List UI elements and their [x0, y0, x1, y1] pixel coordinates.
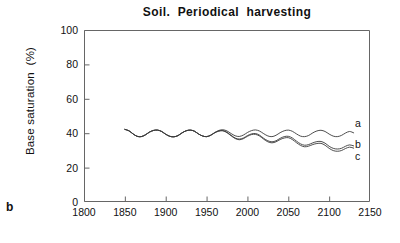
x-tick-label: 2150 [358, 206, 381, 218]
axis-frame [85, 31, 370, 202]
chart-title: Soil. Periodical harvesting [84, 5, 370, 19]
x-tick-label: 2050 [277, 206, 300, 218]
x-tick-label: 2000 [236, 206, 259, 218]
y-axis-tick-labels: 020406080100 [44, 30, 78, 202]
data-series-lines [125, 129, 354, 151]
series-line-b [125, 129, 354, 149]
y-axis-label: Base saturation (%) [24, 11, 36, 191]
y-tick-label: 80 [66, 58, 78, 70]
x-tick-label: 1900 [154, 206, 177, 218]
series-line-c [125, 129, 354, 151]
y-tick-label: 100 [60, 24, 78, 36]
series-label-a: a [355, 117, 361, 129]
series-label-c: c [355, 150, 360, 162]
x-axis-ticks [85, 197, 371, 202]
y-tick-label: 60 [66, 93, 78, 105]
x-tick-label: 2100 [317, 206, 340, 218]
x-tick-label: 1800 [72, 206, 95, 218]
x-tick-label: 1850 [113, 206, 136, 218]
y-tick-label: 40 [66, 127, 78, 139]
y-axis-ticks [85, 31, 90, 203]
x-axis-tick-labels: 18001850190019502000205021002150 [0, 206, 400, 224]
x-tick-label: 1950 [195, 206, 218, 218]
chart-plot-svg [84, 30, 370, 202]
y-tick-label: 20 [66, 162, 78, 174]
figure-panel: Soil. Periodical harvesting b Base satur… [0, 0, 400, 243]
plot-area [84, 30, 370, 202]
series-label-b: b [355, 138, 361, 150]
